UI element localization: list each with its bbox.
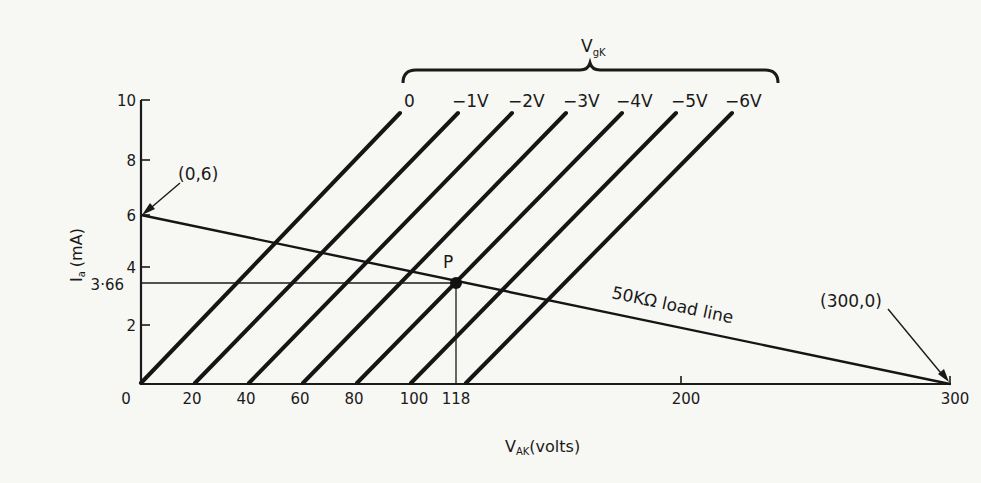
x-tick-label-40: 40 bbox=[236, 390, 255, 408]
chart-canvas: VgK 0 −1V −2V −3V −4V −5V −6V 10 8 6 4 3… bbox=[0, 0, 981, 483]
y-tick-label-10: 10 bbox=[117, 92, 136, 110]
x-tick-label-300: 300 bbox=[941, 390, 970, 408]
vgk-brace bbox=[403, 63, 778, 83]
y-tick-label-2: 2 bbox=[126, 317, 136, 335]
load-line-chart: VgK 0 −1V −2V −3V −4V −5V −6V 10 8 6 4 3… bbox=[0, 0, 981, 483]
curve-minus-1v bbox=[195, 113, 458, 383]
axes bbox=[141, 100, 951, 384]
x-tick-label-80: 80 bbox=[344, 390, 363, 408]
x-tick-label-60: 60 bbox=[290, 390, 309, 408]
y-axis-title-sub: a bbox=[76, 271, 87, 277]
curve-label-minus-4v: −4V bbox=[616, 91, 653, 111]
x-tick-label-0: 0 bbox=[121, 390, 131, 408]
plate-curves bbox=[141, 113, 732, 383]
curve-minus-4v bbox=[357, 113, 622, 383]
curve-minus-3v bbox=[303, 113, 566, 383]
curve-minus-2v bbox=[249, 113, 512, 383]
curve-minus-5v bbox=[411, 113, 676, 383]
label-point-p: P bbox=[443, 252, 453, 272]
x-tick-label-20: 20 bbox=[182, 390, 201, 408]
x-axis-title-main: V bbox=[505, 437, 516, 456]
curve-label-minus-1v: −1V bbox=[452, 91, 489, 111]
curve-0v bbox=[141, 113, 400, 383]
x-axis-title-unit: (volts) bbox=[529, 437, 580, 456]
curve-labels: 0 −1V −2V −3V −4V −5V −6V bbox=[404, 91, 762, 111]
curve-label-minus-5v: −5V bbox=[671, 91, 708, 111]
x-tick-label-100: 100 bbox=[400, 390, 429, 408]
x-tick-label-118: 118 bbox=[442, 390, 471, 408]
y-tick-label-6: 6 bbox=[126, 207, 136, 225]
curve-label-minus-3v: −3V bbox=[563, 91, 600, 111]
annotation-300-0: (300,0) bbox=[820, 291, 882, 311]
operating-point-p bbox=[450, 277, 462, 289]
x-tick-labels: 0 20 40 60 80 100 118 200 300 bbox=[121, 390, 969, 408]
annotation-0-6: (0,6) bbox=[178, 164, 218, 184]
y-tick-labels: 10 8 6 4 3·66 2 bbox=[91, 92, 136, 335]
y-axis-title-unit: (mA) bbox=[67, 228, 86, 267]
x-tick-label-200: 200 bbox=[672, 390, 701, 408]
y-tick-label-3-66: 3·66 bbox=[91, 276, 124, 294]
load-line-label: 50KΩ load line bbox=[610, 282, 735, 327]
curve-minus-6v bbox=[466, 113, 732, 383]
x-axis-title: VAK(volts) bbox=[505, 437, 580, 457]
family-label-sub: gK bbox=[593, 47, 606, 58]
arrow-to-300-0 bbox=[888, 309, 945, 378]
y-axis-title: Ia(mA) bbox=[67, 228, 87, 282]
y-tick-label-4: 4 bbox=[126, 259, 136, 277]
arrowhead-0-6 bbox=[142, 203, 155, 215]
family-label: VgK bbox=[581, 36, 606, 58]
y-tick-label-8: 8 bbox=[126, 152, 136, 170]
family-label-main: V bbox=[581, 36, 593, 56]
curve-label-0v: 0 bbox=[404, 91, 415, 111]
curve-label-minus-6v: −6V bbox=[725, 91, 762, 111]
curve-label-minus-2v: −2V bbox=[508, 91, 545, 111]
x-axis-title-sub: AK bbox=[516, 446, 530, 457]
